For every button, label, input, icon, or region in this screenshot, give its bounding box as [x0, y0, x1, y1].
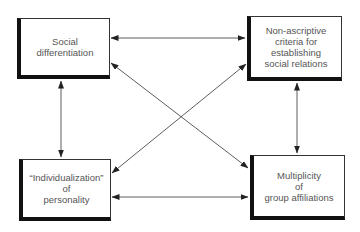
node-social-differentiation: Social differentiation	[17, 18, 110, 79]
node-label: “Individualization” of personality	[30, 172, 104, 205]
node-individualization-of-personality: “Individualization” of personality	[19, 159, 111, 221]
node-label: Social differentiation	[37, 36, 94, 58]
node-label: Multiplicity of group affiliations	[264, 170, 333, 203]
node-label: Non-ascriptive criteria for establishing…	[265, 25, 328, 69]
node-multiplicity-of-group-affiliations: Multiplicity of group affiliations	[250, 155, 345, 220]
arrow-tr-bl	[112, 64, 246, 173]
node-non-ascriptive-criteria: Non-ascriptive criteria for establishing…	[247, 16, 342, 81]
